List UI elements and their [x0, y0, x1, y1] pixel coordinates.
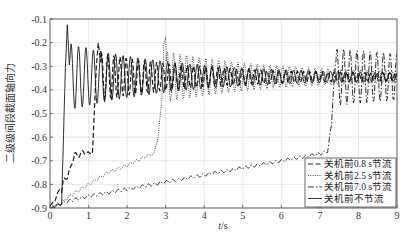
x-axis-title: t/s — [218, 220, 228, 231]
x-tick-label: 1 — [86, 210, 91, 221]
y-tick-label: -0.4 — [31, 84, 47, 95]
x-tick-label: 8 — [356, 210, 361, 221]
x-tick-label: 9 — [395, 210, 400, 221]
y-tick-label: -0.8 — [31, 179, 47, 190]
line-chart: -0.1-0.2-0.3-0.4-0.5-0.6-0.7-0.8-0.9 012… — [0, 0, 411, 238]
x-tick-label: 4 — [202, 210, 207, 221]
legend-label: 关机前2.5 s节流 — [324, 170, 392, 181]
legend: 关机前0.8 s节流关机前2.5 s节流关机前7.0 s节流关机前不节流 — [305, 158, 396, 207]
y-tick-label: -0.9 — [31, 203, 47, 214]
y-tick-label: -0.2 — [31, 37, 47, 48]
y-tick-label: -0.1 — [31, 14, 47, 25]
x-tick-label: 2 — [125, 210, 130, 221]
y-axis-title: 二级级间段截面轴向力 — [4, 63, 16, 163]
y-tick-label: -0.3 — [31, 61, 47, 72]
x-tick-label: 7 — [317, 210, 322, 221]
y-tick-label: -0.6 — [31, 132, 47, 143]
x-tick-label: 6 — [279, 210, 284, 221]
y-tick-label: -0.5 — [31, 108, 47, 119]
y-tick-label: -0.7 — [31, 155, 47, 166]
legend-label: 关机前7.0 s节流 — [324, 181, 392, 192]
legend-label: 关机前不节流 — [324, 193, 384, 204]
legend-label: 关机前0.8 s节流 — [324, 158, 392, 169]
x-tick-label: 3 — [163, 210, 168, 221]
x-tick-label: 0 — [48, 210, 53, 221]
x-tick-label: 5 — [240, 210, 245, 221]
